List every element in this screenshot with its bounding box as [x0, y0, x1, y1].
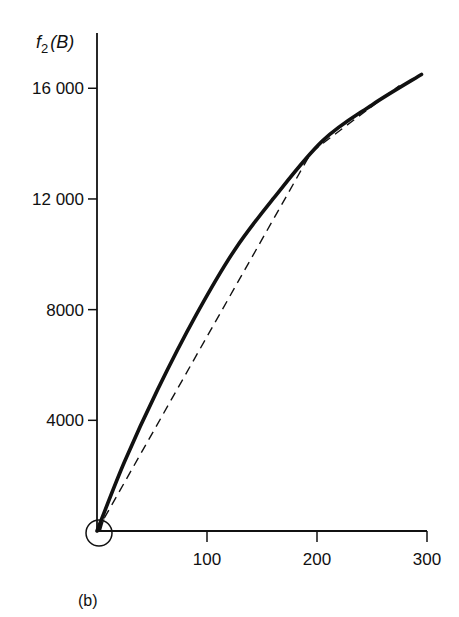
solid-curve: [97, 74, 422, 531]
x-tick-label: 300: [413, 550, 441, 569]
chart: 4000800012 00016 000100200300f2(B)(b): [0, 0, 459, 617]
series-layer: [86, 74, 422, 546]
y-tick-label: 16 000: [32, 79, 84, 98]
panel-label: (b): [78, 592, 98, 609]
axes: [88, 33, 427, 542]
y-tick-label: 8000: [46, 301, 84, 320]
dashed-line: [97, 86, 400, 531]
x-tick-label: 200: [303, 550, 331, 569]
y-tick-label: 12 000: [32, 190, 84, 209]
y-tick-label: 4000: [46, 411, 84, 430]
labels-layer: 4000800012 00016 000100200300f2(B)(b): [32, 32, 441, 609]
y-axis-title: f2(B): [36, 32, 74, 56]
x-tick-label: 100: [193, 550, 221, 569]
